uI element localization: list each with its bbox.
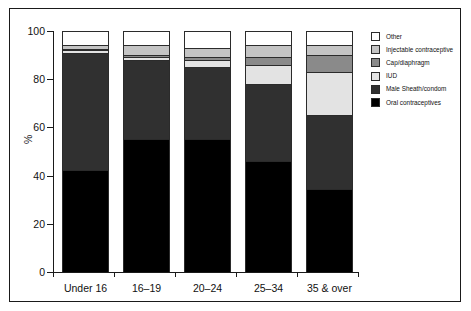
bar-segment bbox=[63, 171, 108, 272]
legend-item[interactable]: Male Sheath/condom bbox=[371, 83, 463, 96]
bar-segment bbox=[124, 32, 169, 46]
y-axis-title: % bbox=[22, 135, 34, 144]
bar-segment bbox=[246, 46, 291, 58]
bar-20-24[interactable] bbox=[184, 31, 231, 272]
bar-segment bbox=[307, 73, 352, 116]
x-tick-mark bbox=[114, 272, 115, 277]
legend-swatch-icon bbox=[371, 58, 380, 67]
bar-segment bbox=[185, 140, 230, 272]
x-tick-mark bbox=[175, 272, 176, 277]
bar-under-16[interactable] bbox=[62, 31, 109, 272]
chart-figure: % 100806040200 Under 1616–1920–2425–3435… bbox=[0, 0, 471, 311]
legend-item[interactable]: Injectable contraceptive bbox=[371, 43, 463, 56]
bar-16-19[interactable] bbox=[123, 31, 170, 272]
x-tick-mark bbox=[297, 272, 298, 277]
legend-label: Injectable contraceptive bbox=[386, 46, 453, 54]
bar-segment bbox=[246, 66, 291, 85]
legend-label: Cap/diaphragm bbox=[386, 59, 430, 67]
x-tick-mark bbox=[236, 272, 237, 277]
y-tick-label-wrap: 20 bbox=[0, 219, 45, 229]
bar-25-34[interactable] bbox=[245, 31, 292, 272]
x-axis-line bbox=[53, 272, 358, 273]
bar-segment bbox=[124, 61, 169, 140]
y-tick-label-wrap: 0 bbox=[0, 267, 45, 277]
plot-area bbox=[53, 31, 357, 272]
bar-segment bbox=[246, 58, 291, 65]
y-tick-label: 0 bbox=[5, 267, 45, 277]
legend-label: Oral contraceptives bbox=[386, 99, 441, 107]
bar-segment bbox=[185, 61, 230, 68]
bar-segment bbox=[307, 46, 352, 56]
y-tick-label: 20 bbox=[5, 219, 45, 229]
y-tick-label-wrap: 60 bbox=[0, 122, 45, 132]
bar-segment bbox=[63, 54, 108, 172]
legend-item[interactable]: IUD bbox=[371, 70, 463, 83]
y-tick-label: 100 bbox=[5, 26, 45, 36]
bar-segment bbox=[185, 32, 230, 49]
legend-label: Male Sheath/condom bbox=[386, 85, 446, 93]
legend-swatch-icon bbox=[371, 98, 380, 107]
y-tick-label-wrap: 100 bbox=[0, 26, 45, 36]
legend-item[interactable]: Oral contraceptives bbox=[371, 96, 463, 109]
legend-swatch-icon bbox=[371, 32, 380, 41]
legend-item[interactable]: Other bbox=[371, 30, 463, 43]
bar-segment bbox=[246, 85, 291, 162]
bar-segment bbox=[63, 32, 108, 46]
legend-label: IUD bbox=[386, 72, 397, 80]
bar-segment bbox=[124, 140, 169, 272]
bar-segment bbox=[307, 190, 352, 272]
x-tick-label: 35 & over bbox=[292, 282, 367, 294]
bar-segment bbox=[124, 46, 169, 56]
y-tick-label-wrap: 40 bbox=[0, 171, 45, 181]
legend-swatch-icon bbox=[371, 45, 380, 54]
legend-item[interactable]: Cap/diaphragm bbox=[371, 56, 463, 69]
bar-segment bbox=[307, 56, 352, 73]
bar-segment bbox=[246, 162, 291, 272]
y-tick-label: 80 bbox=[5, 74, 45, 84]
x-tick-mark bbox=[53, 272, 54, 277]
bar-segment bbox=[307, 116, 352, 190]
legend-label: Other bbox=[386, 33, 402, 41]
legend-swatch-icon bbox=[371, 85, 380, 94]
x-tick-mark bbox=[358, 272, 359, 277]
y-tick-label: 40 bbox=[5, 171, 45, 181]
y-tick-label: 60 bbox=[5, 122, 45, 132]
bar-segment bbox=[185, 49, 230, 59]
bar-35-over[interactable] bbox=[306, 31, 353, 272]
bar-segment bbox=[246, 32, 291, 46]
legend-swatch-icon bbox=[371, 72, 380, 81]
chart-legend: OtherInjectable contraceptiveCap/diaphra… bbox=[371, 30, 463, 109]
bar-segment bbox=[185, 68, 230, 140]
y-tick-label-wrap: 80 bbox=[0, 74, 45, 84]
bar-segment bbox=[307, 32, 352, 46]
